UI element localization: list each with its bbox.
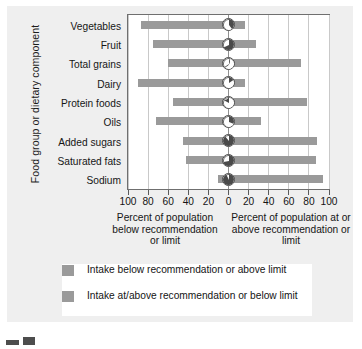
x-axis-caption-right: Percent of population at or above recomm… (231, 212, 351, 247)
bar-oils (156, 117, 261, 125)
x-axis-tick (148, 190, 149, 195)
pie-marker-icon (222, 76, 235, 89)
x-axis-tick (248, 190, 249, 195)
x-axis-tick (208, 190, 209, 195)
x-axis-tick (168, 190, 169, 195)
pie-marker-icon (222, 18, 235, 31)
pie-marker-icon (222, 115, 235, 128)
y-axis-label-oils: Oils (103, 117, 121, 128)
chart-figure: Food group or dietary component Vegetabl… (0, 0, 362, 349)
bar-fruit (153, 40, 256, 48)
y-axis-category-labels: VegetablesFruitTotal grainsDairyProtein … (41, 16, 121, 188)
x-axis-tick (188, 190, 189, 195)
legend-item: Intake at/above recommendation or below … (62, 290, 302, 302)
x-axis-tick (288, 190, 289, 195)
legend-swatch (62, 265, 74, 276)
x-axis-tick (308, 190, 309, 195)
pie-marker-icon (222, 173, 235, 186)
x-axis-tick (128, 190, 129, 195)
x-axis-caption-left: Percent of population below recommendati… (111, 212, 219, 247)
bar-added-sugars (183, 137, 317, 145)
gridline (329, 15, 330, 189)
plot-area (127, 14, 330, 190)
x-axis-tick (329, 190, 330, 195)
y-axis-label-added-sugars: Added sugars (58, 137, 121, 148)
y-axis-label-vegetables: Vegetables (71, 21, 121, 32)
x-axis-tick (228, 190, 229, 195)
y-axis-title: Food group or dietary component (29, 14, 41, 194)
pie-marker-icon (222, 38, 235, 51)
legend-swatch (62, 291, 74, 302)
bar-saturated-fats (186, 156, 316, 164)
legend-item: Intake below recommendation or above lim… (62, 264, 302, 276)
footer-mark-bar-b (23, 337, 35, 345)
y-axis-label-total-grains: Total grains (69, 59, 121, 70)
y-axis-label-saturated-fats: Saturated fats (58, 156, 121, 167)
x-axis-tick-label: 100 (317, 196, 341, 207)
x-axis-tick-labels: 10080604020020406080100 (107, 196, 357, 210)
chart-panel: Food group or dietary component Vegetabl… (7, 6, 353, 322)
pie-marker-icon (222, 96, 235, 109)
pie-marker-icon (222, 154, 235, 167)
pie-marker-icon (222, 57, 235, 70)
x-axis-tick (268, 190, 269, 195)
gridline (148, 15, 149, 189)
chart-legend: Intake below recommendation or above lim… (62, 264, 312, 316)
y-axis-label-protein-foods: Protein foods (61, 98, 121, 109)
gridline (128, 15, 129, 189)
footer-mark-bar-a (6, 340, 19, 345)
figure-footer-mark (6, 337, 40, 346)
pie-marker-icon (222, 134, 235, 147)
y-axis-label-sodium: Sodium (86, 175, 121, 186)
y-axis-label-fruit: Fruit (101, 40, 121, 51)
legend-label: Intake at/above recommendation or below … (87, 290, 302, 302)
bar-protein-foods (173, 98, 307, 106)
legend-label: Intake below recommendation or above lim… (87, 264, 302, 276)
y-axis-label-dairy: Dairy (97, 79, 121, 90)
